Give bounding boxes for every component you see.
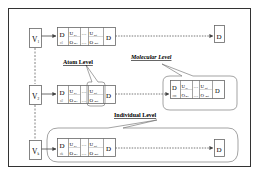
row-2: V 2 D o2 U n1 O m1 … … U nq O mq D — [30, 64, 238, 110]
svg-text:D: D — [217, 146, 222, 154]
svg-text:2: 2 — [38, 97, 40, 101]
molecular-level-label: Molecular Level — [130, 54, 172, 60]
svg-text:D: D — [106, 34, 111, 42]
svg-text:1: 1 — [38, 40, 40, 44]
svg-text:mq: mq — [95, 42, 99, 45]
svg-text:U: U — [70, 31, 74, 36]
svg-text:D: D — [60, 31, 65, 39]
atom-level-label: Atom Level — [63, 59, 93, 65]
svg-text:mq: mq — [95, 153, 99, 156]
svg-text:O: O — [70, 151, 74, 156]
svg-text:ok: ok — [60, 152, 64, 156]
row-3: V k D ok U n1 O m1 … … U nq O mq D D — [30, 120, 239, 162]
svg-text:U: U — [70, 89, 74, 94]
svg-text:D: D — [106, 145, 111, 153]
svg-text:D: D — [217, 33, 222, 41]
svg-text:…: … — [82, 142, 87, 147]
svg-text:m1: m1 — [74, 100, 78, 103]
svg-text:…: … — [194, 84, 199, 89]
svg-text:…: … — [82, 89, 87, 94]
row-1: V 1 D o1 U n1 O m1 … … U nq O mq D D — [30, 26, 225, 48]
diagram-canvas: V 1 D o1 U n1 O m1 … … U nq O mq D D — [0, 0, 259, 177]
svg-text:U: U — [201, 84, 205, 89]
svg-text:k: k — [38, 152, 40, 156]
svg-text:…: … — [194, 93, 199, 98]
svg-text:O: O — [70, 40, 74, 45]
svg-text:m1: m1 — [74, 42, 78, 45]
svg-text:…: … — [82, 31, 87, 36]
svg-text:…: … — [82, 151, 87, 156]
svg-text:D: D — [60, 142, 65, 150]
svg-text:o2: o2 — [60, 99, 64, 103]
svg-text:O: O — [90, 98, 94, 103]
svg-text:D: D — [172, 84, 177, 91]
svg-text:U: U — [90, 89, 94, 94]
svg-text:…: … — [82, 98, 87, 103]
sequence-block-2-end: D om U n1 O m1 … … U nq O mq D — [171, 81, 225, 99]
svg-text:D: D — [215, 87, 220, 94]
svg-text:mq: mq — [95, 100, 99, 103]
svg-text:O: O — [90, 151, 94, 156]
sequence-block-k: D ok U n1 O m1 … … U nq O mq D — [58, 139, 116, 157]
svg-text:U: U — [70, 142, 74, 147]
svg-text:O: O — [70, 98, 74, 103]
svg-text:U: U — [90, 31, 94, 36]
svg-text:m1: m1 — [74, 153, 78, 156]
sequence-block-1: D o1 U n1 O m1 … … U nq O mq D — [58, 28, 116, 46]
svg-text:D: D — [60, 89, 65, 97]
svg-text:O: O — [90, 40, 94, 45]
svg-text:D: D — [106, 92, 111, 100]
individual-level-label: Individual Level — [114, 112, 157, 118]
svg-text:U: U — [90, 142, 94, 147]
svg-text:om: om — [173, 94, 178, 98]
svg-text:…: … — [82, 40, 87, 45]
svg-text:O: O — [201, 93, 205, 98]
sequence-block-2: D o2 U n1 O m1 … … U nq O mq D — [58, 86, 116, 104]
svg-text:o1: o1 — [60, 41, 64, 45]
